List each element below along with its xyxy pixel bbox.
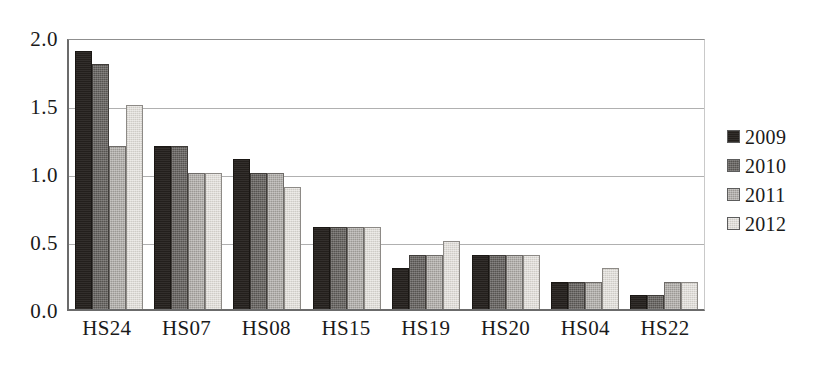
bar[interactable] (205, 173, 222, 309)
bar-group (307, 40, 386, 309)
x-axis-tick-label: HS15 (306, 316, 386, 341)
bar[interactable] (313, 227, 330, 309)
bar[interactable] (585, 282, 602, 309)
bar[interactable] (551, 282, 568, 309)
bar[interactable] (523, 255, 540, 309)
bar-chart: 2.01.51.00.50.0 HS24HS07HS08HS15HS19HS20… (0, 0, 823, 376)
bar[interactable] (392, 268, 409, 309)
x-axis-tick-label: HS19 (386, 316, 466, 341)
x-axis-tick-label: HS20 (466, 316, 546, 341)
bar[interactable] (154, 146, 171, 309)
bar[interactable] (75, 51, 92, 309)
bar[interactable] (171, 146, 188, 309)
bar[interactable] (630, 295, 647, 309)
bar[interactable] (188, 173, 205, 309)
legend-item[interactable]: 2010 (727, 151, 786, 180)
bar[interactable] (647, 295, 664, 309)
legend-swatch-icon (727, 159, 740, 172)
legend-label: 2010 (745, 156, 786, 176)
x-axis-tick-label: HS22 (625, 316, 705, 341)
bar[interactable] (426, 255, 443, 309)
bar[interactable] (506, 255, 523, 309)
bar[interactable] (364, 227, 381, 309)
x-axis-tick-label: HS24 (67, 316, 147, 341)
bar[interactable] (602, 268, 619, 309)
bar-group (387, 40, 466, 309)
bars-layer (69, 40, 704, 309)
bar-group (466, 40, 545, 309)
bar[interactable] (250, 173, 267, 309)
y-axis-tick-label: 1.5 (2, 97, 58, 118)
bar[interactable] (568, 282, 585, 309)
y-axis-tick-label: 2.0 (2, 29, 58, 50)
bar[interactable] (489, 255, 506, 309)
y-axis: 2.01.51.00.50.0 (0, 0, 58, 376)
legend-item[interactable]: 2009 (727, 122, 786, 151)
x-axis: HS24HS07HS08HS15HS19HS20HS04HS22 (67, 316, 705, 341)
bar[interactable] (347, 227, 364, 309)
bar[interactable] (284, 187, 301, 309)
bar[interactable] (267, 173, 284, 309)
legend-swatch-icon (727, 188, 740, 201)
legend-label: 2012 (745, 214, 786, 234)
y-axis-tick-label: 0.0 (2, 301, 58, 322)
bar[interactable] (330, 227, 347, 309)
bar[interactable] (409, 255, 426, 309)
bar-group (228, 40, 307, 309)
x-axis-tick-label: HS07 (147, 316, 227, 341)
legend-swatch-icon (727, 217, 740, 230)
legend-item[interactable]: 2012 (727, 209, 786, 238)
x-axis-tick-label: HS04 (546, 316, 626, 341)
legend-item[interactable]: 2011 (727, 180, 786, 209)
bar[interactable] (233, 159, 250, 309)
bar[interactable] (443, 241, 460, 309)
legend-label: 2009 (745, 127, 786, 147)
plot-area (67, 39, 705, 311)
legend-label: 2011 (745, 185, 785, 205)
bar[interactable] (126, 105, 143, 309)
legend-swatch-icon (727, 130, 740, 143)
legend: 2009201020112012 (727, 122, 786, 238)
y-axis-tick-label: 1.0 (2, 165, 58, 186)
bar-group (148, 40, 227, 309)
x-axis-tick-label: HS08 (227, 316, 307, 341)
bar[interactable] (664, 282, 681, 309)
bar-group (69, 40, 148, 309)
bar[interactable] (92, 64, 109, 309)
bar[interactable] (109, 146, 126, 309)
bar-group (625, 40, 704, 309)
bar-group (545, 40, 624, 309)
y-axis-tick-label: 0.5 (2, 233, 58, 254)
bar[interactable] (472, 255, 489, 309)
bar[interactable] (681, 282, 698, 309)
